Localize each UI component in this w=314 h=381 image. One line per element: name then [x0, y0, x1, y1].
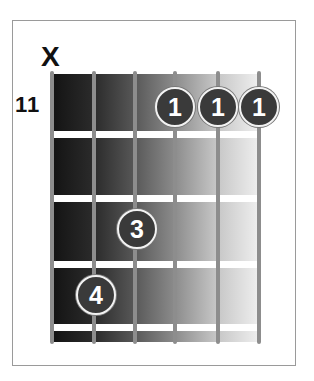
fret-line-2 [54, 195, 260, 202]
finger-dot: 4 [76, 275, 116, 315]
string-6 [50, 71, 54, 344]
finger-dot: 1 [155, 87, 195, 127]
string-4 [133, 71, 137, 344]
fret-line-1 [54, 131, 260, 138]
starting-fret-label: 11 [15, 92, 40, 118]
muted-string-marker: X [41, 41, 60, 73]
fret-line-4 [54, 324, 260, 331]
finger-dot: 3 [117, 209, 157, 249]
fret-line-3 [54, 261, 260, 268]
finger-dot: 1 [239, 87, 279, 127]
finger-dot: 1 [198, 87, 238, 127]
